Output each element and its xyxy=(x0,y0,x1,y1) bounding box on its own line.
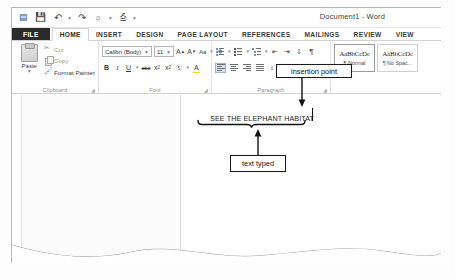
clipboard-dialog-launcher-icon[interactable]: ◢ xyxy=(91,87,95,93)
align-left-button[interactable] xyxy=(215,63,226,73)
multilevel-list-button[interactable] xyxy=(252,46,262,57)
font-dialog-launcher-icon[interactable]: ◢ xyxy=(204,87,208,93)
text-effects-dropdown-icon[interactable]: ▼ xyxy=(185,65,189,70)
line-spacing-button[interactable]: ↕ xyxy=(267,62,277,73)
font-name-combo[interactable]: Calibri (Body) ▼ xyxy=(102,46,152,57)
ribbon-group-clipboard: Paste ▼ Cut Copy xyxy=(12,41,99,93)
show-formatting-marks-button[interactable]: ¶ xyxy=(306,46,316,57)
paste-dropdown-icon[interactable]: ▼ xyxy=(27,69,32,73)
line-spacing-dropdown-icon[interactable]: ▼ xyxy=(279,65,283,70)
underline-button[interactable]: U xyxy=(124,62,133,73)
print-preview-icon[interactable]: ⎙ xyxy=(115,10,130,25)
document-text[interactable]: SEE THE ELEPHANT HABITAT xyxy=(210,114,314,123)
paragraph-row-2: ↕ ▼ ▪ ▼ ▣ ▼ xyxy=(215,61,320,74)
format-painter-icon xyxy=(44,68,52,76)
borders-button[interactable]: ▣ xyxy=(304,62,314,73)
undo-icon[interactable]: ↶ xyxy=(50,10,65,25)
insertion-point-caret xyxy=(312,108,313,121)
cut-label: Cut xyxy=(54,46,64,53)
font-size-value: 11 xyxy=(157,49,164,55)
shading-button[interactable]: ▪ xyxy=(285,62,295,73)
format-painter-button[interactable]: Format Painter xyxy=(44,67,95,77)
cut-button[interactable]: Cut xyxy=(44,44,95,54)
scissors-icon xyxy=(44,45,52,53)
shrink-font-button[interactable]: A▼ xyxy=(187,46,196,57)
shading-dropdown-icon[interactable]: ▼ xyxy=(297,65,301,70)
save-icon[interactable]: 💾 xyxy=(33,10,48,25)
justify-button[interactable] xyxy=(254,63,265,73)
strikethrough-button[interactable]: abc xyxy=(141,62,150,73)
align-right-button[interactable] xyxy=(241,63,252,73)
customize-qat-icon[interactable]: ▼ xyxy=(132,15,137,21)
copy-button[interactable]: Copy xyxy=(44,56,95,66)
italic-button[interactable]: I xyxy=(113,62,122,73)
tab-home[interactable]: HOME xyxy=(52,28,89,41)
style-no-spacing[interactable]: AaBbCcDc ¶ No Spac... xyxy=(377,44,418,72)
text-effects-icon[interactable]: Ⓢ xyxy=(174,62,183,73)
word-app-icon[interactable]: ▤ xyxy=(16,10,31,25)
bold-button[interactable]: B xyxy=(102,62,111,73)
decrease-indent-button[interactable]: ⇤ xyxy=(270,46,280,57)
style-no-spacing-label: ¶ No Spac... xyxy=(383,60,413,66)
change-case-button[interactable]: Aa xyxy=(198,46,207,57)
document-title: Document1 - Word xyxy=(320,12,385,21)
subscript-button[interactable]: x2 xyxy=(152,62,161,73)
word-window: ▤ 💾 ↶ ▼ ↷ ☼ ▼ ⎙ ▼ Document1 - Word FILE … xyxy=(11,7,441,263)
page-margin-divider xyxy=(180,95,181,263)
align-center-icon xyxy=(230,64,238,71)
document-left-pane xyxy=(21,95,180,263)
tab-review[interactable]: REVIEW xyxy=(347,28,389,40)
tab-file[interactable]: FILE xyxy=(12,28,50,40)
font-size-dropdown-icon[interactable]: ▼ xyxy=(166,49,171,55)
align-center-button[interactable] xyxy=(228,63,239,73)
font-row-2: B I U ▼ abc x2 x2 Ⓢ ▼ A xyxy=(102,61,201,74)
paste-button[interactable]: Paste ▼ xyxy=(15,43,44,73)
ribbon-group-font: Calibri (Body) ▼ 11 ▼ A▲ A▼ Aa ▼ ❖ xyxy=(99,41,212,93)
bullets-icon xyxy=(216,48,225,56)
touch-mode-dropdown-icon[interactable]: ▼ xyxy=(108,15,113,21)
ribbon-group-paragraph: ▼ ▼ xyxy=(212,41,331,93)
borders-dropdown-icon[interactable]: ▼ xyxy=(316,65,320,70)
bullets-dropdown-icon[interactable]: ▼ xyxy=(227,49,231,54)
multilevel-list-dropdown-icon[interactable]: ▼ xyxy=(264,49,268,54)
tab-page-layout[interactable]: PAGE LAYOUT xyxy=(171,28,235,40)
redo-icon[interactable]: ↷ xyxy=(74,10,89,25)
align-right-icon xyxy=(243,64,251,71)
tab-design[interactable]: DESIGN xyxy=(129,28,170,40)
font-group-label: Font xyxy=(99,87,211,93)
font-size-combo[interactable]: 11 ▼ xyxy=(154,46,174,57)
ribbon: Paste ▼ Cut Copy xyxy=(12,41,441,94)
ribbon-tab-strip: FILE HOME INSERT DESIGN PAGE LAYOUT REFE… xyxy=(12,28,441,41)
increase-indent-button[interactable]: ⇥ xyxy=(282,46,292,57)
tab-insert[interactable]: INSERT xyxy=(89,28,129,40)
font-name-dropdown-icon[interactable]: ▼ xyxy=(144,49,149,55)
clipboard-commands: Cut Copy Format Painter xyxy=(44,43,95,77)
tab-references[interactable]: REFERENCES xyxy=(235,28,298,40)
numbering-button[interactable] xyxy=(233,46,243,57)
paragraph-dialog-launcher-icon[interactable]: ◢ xyxy=(323,87,327,93)
highlight-color-button[interactable]: A xyxy=(192,62,201,73)
screenshot-root: ▤ 💾 ↶ ▼ ↷ ☼ ▼ ⎙ ▼ Document1 - Word FILE … xyxy=(0,0,455,279)
copy-icon xyxy=(44,57,52,65)
tab-view[interactable]: VIEW xyxy=(389,28,421,40)
align-left-icon xyxy=(217,64,225,71)
numbering-dropdown-icon[interactable]: ▼ xyxy=(245,49,249,54)
font-row-1: Calibri (Body) ▼ 11 ▼ A▲ A▼ Aa ▼ ❖ xyxy=(102,45,225,58)
paste-icon xyxy=(21,44,38,62)
bullets-button[interactable] xyxy=(215,46,225,57)
touch-mode-icon[interactable]: ☼ xyxy=(91,10,106,25)
paragraph-group-label: Paragraph xyxy=(212,87,330,93)
underline-dropdown-icon[interactable]: ▼ xyxy=(135,65,139,70)
document-area[interactable]: SEE THE ELEPHANT HABITAT xyxy=(12,95,441,263)
copy-label: Copy xyxy=(54,57,68,64)
style-normal-label: ¶ Normal xyxy=(344,60,366,66)
font-name-value: Calibri (Body) xyxy=(105,49,142,55)
grow-font-button[interactable]: A▲ xyxy=(176,46,185,57)
multilevel-list-icon xyxy=(252,48,261,56)
sort-button[interactable]: ⇩ xyxy=(294,46,304,57)
undo-dropdown-icon[interactable]: ▼ xyxy=(67,15,72,21)
ribbon-group-styles: AaBbCcDc ¶ Normal AaBbCcDc ¶ No Spac... xyxy=(331,41,441,93)
style-normal[interactable]: AaBbCcDc ¶ Normal xyxy=(334,44,375,72)
superscript-button[interactable]: x2 xyxy=(163,62,172,73)
tab-mailings[interactable]: MAILINGS xyxy=(298,28,347,40)
